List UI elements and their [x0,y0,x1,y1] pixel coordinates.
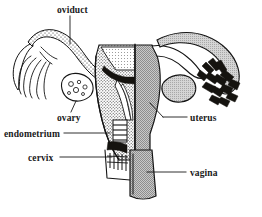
label-oviduct: oviduct [57,5,89,15]
uterus-right-half [135,44,160,161]
left-oviduct-tube [28,30,101,79]
label-endometrium: endometrium [4,129,60,139]
label-cervix: cervix [28,153,54,163]
cervical-canal-ridges [113,120,127,142]
right-ovary [162,75,196,102]
reproductive-system-illustration: oviduct ovary endometrium cervix uterus … [0,0,262,217]
anatomy-figure: oviduct ovary endometrium cervix uterus … [0,0,262,217]
left-fimbriae [13,44,57,99]
label-ovary: ovary [57,113,81,123]
left-ovary [62,73,94,101]
label-uterus: uterus [190,113,217,123]
label-vagina: vagina [190,168,218,178]
vagina-canal [130,150,156,199]
leader-ovary [71,101,76,112]
